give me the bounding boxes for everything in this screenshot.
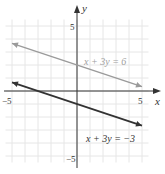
x-axis-label: x	[154, 95, 160, 107]
y-tick-min: −5	[66, 154, 76, 164]
y-tick-max: 5	[70, 22, 75, 32]
y-axis-label: y	[81, 2, 87, 14]
x-tick-max: 5	[138, 96, 143, 106]
line1-equation-label: x + 3y = 6	[83, 56, 126, 67]
x-tick-min: −5	[2, 96, 12, 106]
coordinate-plane: y x −5 5 5 −5 x + 3y = 6 x + 3y = −3	[0, 0, 165, 174]
line2-equation-label: x + 3y = −3	[85, 133, 135, 144]
